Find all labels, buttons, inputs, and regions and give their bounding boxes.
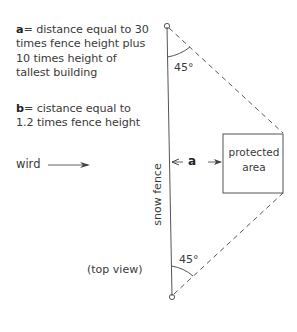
distance-a-label: a [188, 154, 196, 168]
snow-fence-label: snow fence [151, 160, 164, 230]
bottom-angle-arc [172, 266, 194, 276]
top-angle-label: 45° [174, 61, 194, 74]
wind-label: wird [16, 157, 40, 171]
wind-arrow-icon [48, 162, 90, 168]
lower-boundary-dashed [174, 193, 283, 294]
top-view-label: (top view) [87, 263, 142, 276]
protected-area-label-line1: protected [226, 146, 282, 158]
snow-fence-line [167, 27, 172, 296]
upper-boundary-dashed [169, 28, 283, 133]
distance-a-arrow [172, 159, 222, 165]
protected-area-label-line2: area [226, 161, 282, 173]
top-angle-arc [168, 47, 191, 57]
bottom-angle-label: 45° [179, 253, 199, 266]
